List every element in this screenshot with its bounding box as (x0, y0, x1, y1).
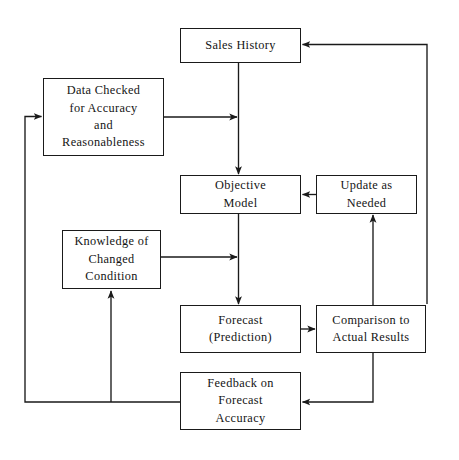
edge-comparison-to-feedback (303, 353, 374, 402)
node-data-checked-for-accuracy-and-reasonableness[interactable]: Data Checked for Accuracy and Reasonable… (43, 78, 164, 156)
node-objective-model[interactable]: Objective Model (180, 175, 301, 214)
node-comparison-to-actual-results[interactable]: Comparison to Actual Results (316, 305, 426, 353)
node-forecast-prediction[interactable]: Forecast (Prediction) (180, 305, 301, 353)
flowchart-diagram: Sales History Data Checked for Accuracy … (0, 0, 459, 460)
node-sales-history[interactable]: Sales History (180, 28, 301, 63)
node-update-as-needed[interactable]: Update as Needed (316, 175, 417, 214)
node-feedback-on-forecast-accuracy[interactable]: Feedback on Forecast Accuracy (180, 372, 301, 430)
node-knowledge-of-changed-condition[interactable]: Knowledge of Changed Condition (62, 230, 161, 289)
